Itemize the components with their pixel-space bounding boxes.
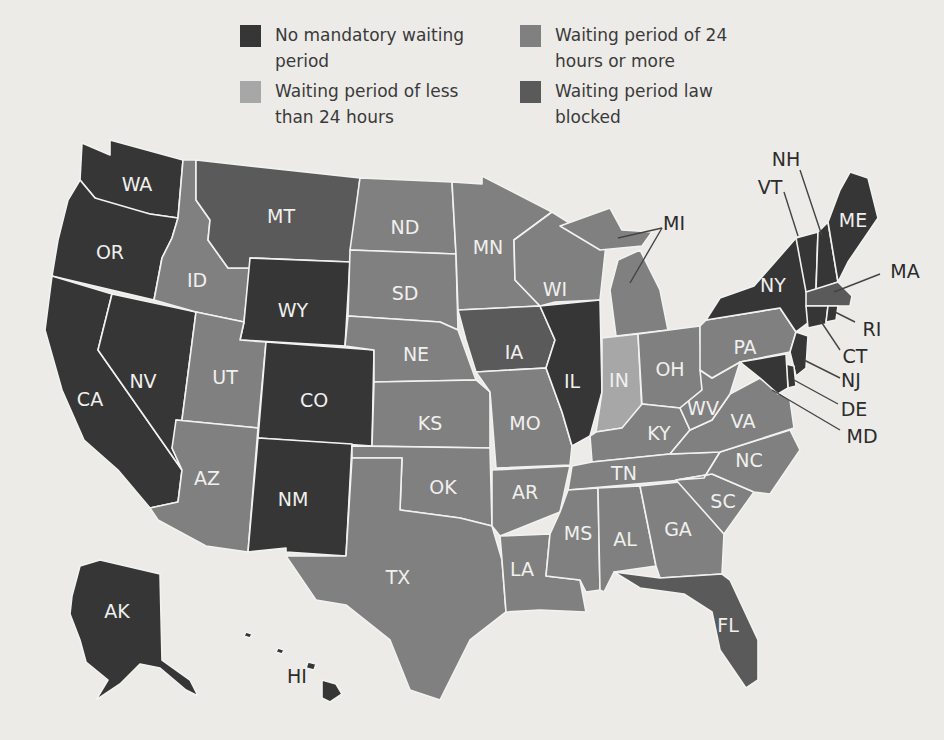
label-ia: IA — [505, 341, 524, 363]
state-ak — [70, 560, 198, 700]
label-al: AL — [613, 528, 637, 550]
label-de: DE — [841, 398, 868, 420]
state-hi-kauai — [244, 632, 252, 638]
state-ri — [826, 306, 838, 322]
state-hi-oahu — [276, 648, 284, 654]
label-wy: WY — [278, 299, 309, 321]
label-nd: ND — [391, 216, 420, 238]
label-sc: SC — [710, 490, 735, 512]
label-me: ME — [839, 209, 867, 231]
label-hi: HI — [287, 665, 307, 687]
label-ks: KS — [418, 412, 443, 434]
label-tx: TX — [385, 566, 411, 588]
label-sd: SD — [392, 282, 419, 304]
label-nj: NJ — [841, 369, 861, 391]
label-ak: AK — [104, 600, 130, 622]
label-il: IL — [564, 370, 581, 392]
label-nh: NH — [772, 148, 801, 170]
state-hi-big — [322, 680, 342, 702]
state-ct — [806, 306, 828, 328]
label-or: OR — [96, 241, 124, 263]
state-mi-lower — [610, 250, 668, 336]
label-ok: OK — [429, 476, 457, 498]
label-ne: NE — [403, 343, 429, 365]
label-co: CO — [300, 389, 328, 411]
state-hi-maui — [306, 662, 316, 670]
label-la: LA — [510, 558, 534, 580]
label-mi: MI — [663, 212, 685, 234]
label-az: AZ — [194, 467, 220, 489]
label-ga: GA — [664, 518, 692, 540]
label-id: ID — [187, 269, 207, 291]
label-ms: MS — [564, 522, 592, 544]
label-tn: TN — [610, 462, 637, 484]
label-ct: CT — [843, 345, 868, 367]
label-ma: MA — [890, 260, 919, 282]
label-wi: WI — [543, 278, 567, 300]
us-map: WA OR CA NV ID MT WY UT CO AZ NM ND SD N… — [0, 0, 944, 740]
label-wa: WA — [122, 173, 153, 195]
label-nc: NC — [735, 449, 762, 471]
label-nm: NM — [278, 488, 309, 510]
label-nv: NV — [129, 370, 156, 392]
label-ca: CA — [77, 388, 103, 410]
label-fl: FL — [717, 614, 739, 636]
label-va: VA — [731, 410, 756, 432]
label-md: MD — [846, 425, 877, 447]
label-pa: PA — [733, 336, 756, 358]
label-ky: KY — [647, 422, 671, 444]
label-ut: UT — [212, 366, 238, 388]
label-wv: WV — [687, 397, 719, 419]
label-in: IN — [609, 369, 629, 391]
label-vt: VT — [758, 176, 783, 198]
label-mn: MN — [473, 236, 504, 258]
label-ar: AR — [512, 481, 538, 503]
label-ri: RI — [863, 318, 882, 340]
label-oh: OH — [655, 358, 684, 380]
label-mt: MT — [267, 205, 295, 227]
label-mo: MO — [509, 412, 540, 434]
label-ny: NY — [760, 274, 786, 296]
